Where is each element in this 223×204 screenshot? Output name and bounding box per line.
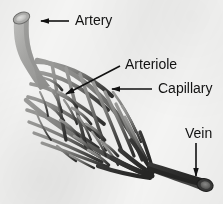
vessel-diagram: Artery Arteriole Capillary Vein: [0, 0, 223, 204]
label-artery: Artery: [75, 12, 112, 28]
label-vein: Vein: [185, 125, 212, 141]
label-capillary: Capillary: [158, 80, 212, 96]
label-arteriole: Arteriole: [125, 56, 177, 72]
diagram-canvas: Artery Arteriole Capillary Vein: [0, 0, 223, 204]
